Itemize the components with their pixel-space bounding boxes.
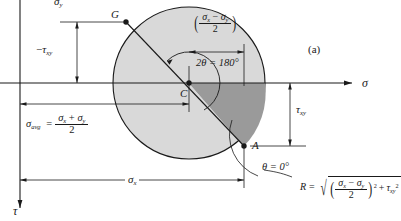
sigma-axis-label: σ [362, 77, 368, 89]
half-difference-expression: (σx − σy2) [193, 12, 238, 34]
neg-tau-dim-arrow-top [75, 22, 79, 29]
tau-axis-label: τ [13, 205, 17, 217]
point-G-label: G [111, 9, 119, 20]
theta-zero-label: θ = 0° [262, 162, 289, 173]
sigma-avg-expression: σavg =σx + σy2 [26, 113, 88, 136]
tau-xy-arrow-bottom [288, 140, 292, 147]
neg-tau-xy-label: −τxy [36, 44, 52, 57]
tau-xy-label: τxy [296, 104, 306, 117]
sigma-axis-arrowhead [344, 81, 352, 86]
tau-xy-arrow-top [288, 83, 292, 90]
point-C-label: C [180, 88, 187, 99]
sigma-x-arrow-left [20, 178, 27, 182]
sigma-x-label: σx [125, 174, 139, 187]
radius-formula: R=√(σx − σy2)2+τxy2 [300, 176, 401, 200]
radical-sign: √ [320, 178, 326, 199]
figure-caption: (a) [308, 44, 320, 55]
point-G-marker [123, 19, 128, 24]
sigma-avg-arrow-left [20, 102, 27, 106]
sigma-x-arrow-right [238, 178, 245, 182]
right-paren: ) [233, 13, 237, 32]
point-A-label: A [252, 140, 259, 151]
point-A-marker [241, 143, 246, 148]
point-C-marker [186, 80, 191, 85]
tau-axis-arrowhead [18, 200, 23, 208]
sigma-y-label: σy [54, 0, 62, 9]
neg-tau-dim-arrow-bottom [75, 77, 79, 84]
left-paren: ( [194, 13, 198, 32]
two-theta-label: 2θ = 180° [196, 58, 239, 69]
